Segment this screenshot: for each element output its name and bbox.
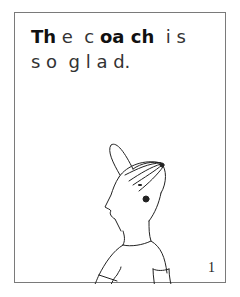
book-page: Th e c oa ch i s s o g l a d. [14,12,226,283]
coach-illustration [15,13,227,284]
page-number: 1 [208,260,215,276]
